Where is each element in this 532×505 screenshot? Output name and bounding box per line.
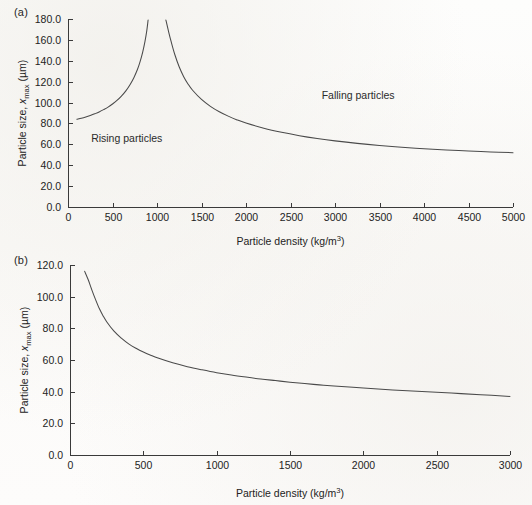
chart-a-plot-area: 0500100015002000250030003500400045005000… bbox=[0, 0, 532, 250]
x-tick-label: 0 bbox=[66, 211, 72, 223]
x-tick-label: 500 bbox=[105, 211, 123, 223]
y-tick-label: 160.0 bbox=[35, 34, 61, 46]
curve-region-annotation: Falling particles bbox=[322, 89, 395, 101]
y-tick-label: 140.0 bbox=[35, 55, 61, 67]
x-tick-label: 2000 bbox=[235, 211, 259, 223]
x-tick-label: 1500 bbox=[279, 459, 303, 471]
y-tick-label: 80.0 bbox=[43, 322, 64, 334]
x-tick-label: 3000 bbox=[499, 459, 523, 471]
x-tick-label: 2500 bbox=[280, 211, 304, 223]
x-tick-label: 4000 bbox=[413, 211, 437, 223]
y-tick-label: 60.0 bbox=[43, 354, 64, 366]
y-tick-label: 180.0 bbox=[35, 13, 61, 25]
x-tick-label: 3500 bbox=[369, 211, 393, 223]
y-tick-label: 120.0 bbox=[37, 259, 63, 271]
x-axis-title: Particle density (kg/m3) bbox=[236, 486, 344, 499]
y-tick-label: 20.0 bbox=[41, 180, 62, 192]
curve-region-annotation: Rising particles bbox=[91, 132, 162, 144]
data-curve bbox=[85, 271, 510, 396]
y-tick-label: 100.0 bbox=[35, 97, 61, 109]
x-tick-label: 2500 bbox=[426, 459, 450, 471]
data-curve bbox=[77, 20, 148, 119]
x-tick-label: 1000 bbox=[206, 459, 230, 471]
x-tick-label: 0 bbox=[68, 459, 74, 471]
x-axis-title: Particle density (kg/m3) bbox=[236, 234, 344, 247]
y-tick-label: 20.0 bbox=[43, 417, 64, 429]
data-curve bbox=[166, 20, 513, 153]
y-tick-label: 120.0 bbox=[35, 76, 61, 88]
y-tick-label: 40.0 bbox=[43, 386, 64, 398]
x-tick-label: 1500 bbox=[191, 211, 215, 223]
y-axis-title: Particle size, xmax (µm) bbox=[18, 307, 33, 414]
y-tick-label: 40.0 bbox=[41, 159, 62, 171]
y-tick-label: 0.0 bbox=[48, 449, 63, 461]
chart-panel-b: (b) 0500100015002000250030000.020.040.06… bbox=[0, 250, 532, 505]
x-tick-label: 5000 bbox=[502, 211, 526, 223]
x-tick-label: 4500 bbox=[458, 211, 482, 223]
y-tick-label: 0.0 bbox=[46, 201, 61, 213]
y-tick-label: 60.0 bbox=[41, 138, 62, 150]
x-tick-label: 3000 bbox=[324, 211, 348, 223]
x-tick-label: 500 bbox=[135, 459, 153, 471]
y-axis-title: Particle size, xmax (µm) bbox=[16, 60, 31, 167]
y-tick-label: 100.0 bbox=[37, 291, 63, 303]
chart-panel-a: (a) 050010001500200025003000350040004500… bbox=[0, 0, 532, 250]
y-tick-label: 80.0 bbox=[41, 117, 62, 129]
x-tick-label: 2000 bbox=[352, 459, 376, 471]
x-tick-label: 1000 bbox=[146, 211, 170, 223]
chart-b-plot-area: 0500100015002000250030000.020.040.060.08… bbox=[0, 250, 532, 505]
